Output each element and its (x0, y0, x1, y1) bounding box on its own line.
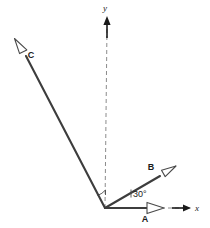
vector-a-label: A (142, 214, 149, 224)
vector-a (105, 202, 164, 213)
x-axis-label: x (194, 203, 199, 213)
vector-c-label: C (28, 50, 35, 60)
y-axis-line (105, 26, 107, 208)
vector-diagram-figure: C B A 30° x y (0, 0, 210, 228)
vector-diagram-canvas: C B A 30° x y (0, 0, 210, 228)
vector-c-line (26, 56, 105, 208)
x-axis-arrowhead (172, 204, 191, 211)
vector-a-arrowhead-icon (147, 202, 164, 213)
vector-b-arrowhead-icon (162, 166, 177, 177)
y-axis-label: y (102, 3, 107, 13)
vector-c (15, 39, 106, 209)
y-axis-arrowhead (103, 16, 110, 38)
angle-30-label: 30° (133, 189, 147, 199)
vector-c-arrowhead-icon (15, 39, 27, 54)
vector-b (105, 166, 176, 208)
vector-b-label: B (148, 162, 155, 172)
